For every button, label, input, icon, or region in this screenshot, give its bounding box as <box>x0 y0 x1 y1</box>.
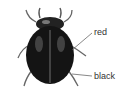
label-black: black <box>94 72 115 81</box>
label-red: red <box>94 28 107 37</box>
beetle-diagram: red black <box>0 0 124 92</box>
